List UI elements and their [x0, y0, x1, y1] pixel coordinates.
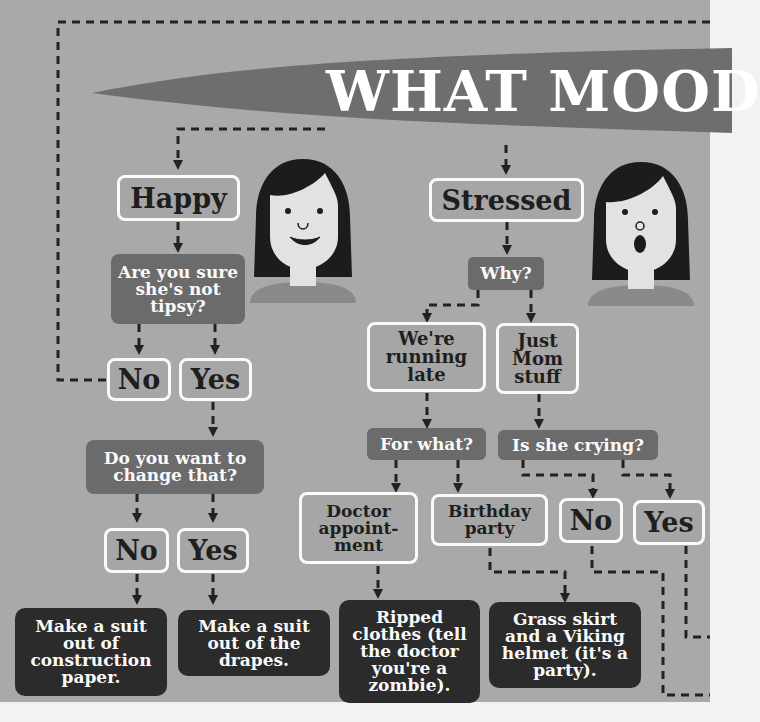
question-tipsy: Are you sure she's not tipsy? — [111, 254, 245, 324]
question-is-she-crying: Is she crying? — [498, 430, 658, 460]
crying-yes-button[interactable]: Yes — [633, 500, 705, 545]
title-banner: WHAT MOOD — [92, 45, 732, 135]
surprised-woman-icon — [588, 160, 694, 306]
question-why: Why? — [468, 257, 544, 290]
option-running-late[interactable]: We're running late — [367, 322, 486, 392]
mood-happy[interactable]: Happy — [117, 175, 240, 221]
smiling-woman-icon — [250, 157, 356, 303]
tipsy-no-button[interactable]: No — [107, 358, 171, 401]
result-drapes: Make a suit out of the drapes. — [178, 610, 330, 676]
change-yes-button[interactable]: Yes — [177, 528, 249, 573]
result-construction-paper: Make a suit out of construction paper. — [15, 608, 167, 696]
mood-happy-label: Happy — [130, 185, 226, 212]
tipsy-yes-button[interactable]: Yes — [179, 358, 252, 401]
page-title: WHAT MOOD — [326, 59, 760, 123]
result-zombie: Ripped clothes (tell the doctor you're a… — [339, 600, 480, 703]
question-change: Do you want to change that? — [86, 440, 264, 494]
option-mom-stuff[interactable]: Just Mom stuff — [496, 323, 579, 394]
result-viking-helmet: Grass skirt and a Viking helmet (it's a … — [489, 602, 641, 688]
option-birthday-party[interactable]: Birthday party — [431, 494, 548, 546]
option-doctor-appointment[interactable]: Doctor appoint- ment — [299, 492, 418, 564]
mood-stressed[interactable]: Stressed — [429, 178, 584, 222]
crying-no-button[interactable]: No — [559, 498, 623, 543]
question-for-what: For what? — [367, 428, 486, 460]
change-no-button[interactable]: No — [104, 528, 169, 573]
